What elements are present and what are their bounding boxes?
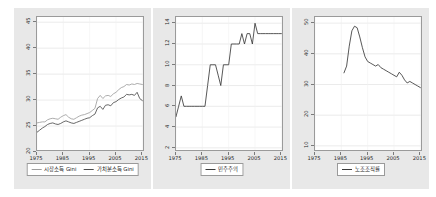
y-axis-tick-mark [172,22,175,23]
x-axis-tick-label: 1995 [82,155,95,161]
legend-label: 민주주의 [218,166,238,173]
y-axis-tick-label: 20 [302,110,310,118]
y-axis-tick-mark [33,73,36,74]
x-axis-tick-label: 1995 [221,155,234,161]
y-axis-tick-label: 40 [302,49,310,57]
series-line-0 [344,26,420,87]
y-axis-tick-mark [33,21,36,22]
legend-item[interactable]: 노조조직률 [342,166,380,173]
y-axis-tick: 10 [292,141,312,149]
y-axis-tick-mark [172,43,175,44]
plot-svg-0 [37,17,144,151]
y-axis-tick-label: 14 [163,18,171,26]
y-axis-tick-label: 8 [163,81,171,89]
y-axis-tick-mark [172,105,175,106]
y-axis-tick: 4 [153,122,173,130]
y-axis-tick-label: 6 [163,101,171,109]
chart-panel-union-density: 102030405019751985199520052015노조조직률 [292,8,429,189]
legend-0: 시장소득 Gini가처분소득 Gini [26,163,139,176]
y-axis-tick-label: 2 [163,143,171,151]
y-axis-tick-mark [311,22,314,23]
legend-item[interactable]: 가처분소득 Gini [84,166,134,173]
x-axis-tick-label: 1985 [334,155,347,161]
x-axis-tick-label: 1995 [360,155,373,161]
y-axis-tick: 12 [153,39,173,47]
figure-canvas: 20253035404519751985199520052015시장소득 Gin… [0,0,436,197]
y-axis-tick-mark [33,125,36,126]
legend-2: 노조조직률 [337,163,385,176]
y-axis-tick-label: 20 [24,147,32,155]
y-axis-tick-label: 35 [24,69,32,77]
legend-1: 민주주의 [200,163,243,176]
legend-line-icon [84,169,94,170]
y-axis-tick-mark [33,47,36,48]
x-axis-tick-label: 1985 [195,155,208,161]
y-axis-tick-mark [311,84,314,85]
y-axis-tick-label: 4 [163,122,171,130]
plot-svg-2 [315,17,422,151]
x-axis-tick-label: 1985 [56,155,69,161]
y-axis-tick-mark [172,147,175,148]
plot-wrap-2: 102030405019751985199520052015 [314,16,422,151]
x-axis-tick-label: 2005 [247,155,260,161]
y-axis-tick-mark [311,145,314,146]
y-axis-tick: 40 [292,49,312,57]
y-axis-tick: 10 [153,60,173,68]
plot-wrap-0: 20253035404519751985199520052015 [36,16,144,151]
y-axis-tick: 30 [292,80,312,88]
x-axis-tick-label: 2005 [108,155,121,161]
y-axis-tick: 25 [14,121,34,129]
legend-item[interactable]: 시장소득 Gini [31,166,76,173]
y-axis-tick: 8 [153,81,173,89]
x-axis-tick-label: 2015 [135,155,148,161]
y-axis-tick: 20 [292,110,312,118]
x-axis-tick-label: 1975 [307,155,320,161]
y-axis-tick-mark [172,85,175,86]
plot-area-1 [175,16,283,151]
y-axis-tick-mark [172,64,175,65]
y-axis-tick-label: 12 [163,39,171,47]
x-axis-tick-label: 2005 [386,155,399,161]
y-axis-tick-label: 10 [163,60,171,68]
x-axis-tick-label: 2015 [274,155,287,161]
y-axis-tick-label: 30 [24,95,32,103]
y-axis-tick-mark [311,114,314,115]
x-axis-tick-label: 1975 [29,155,42,161]
legend-label: 시장소득 Gini [44,166,76,173]
plot-area-0 [36,16,144,151]
legend-line-icon [342,169,352,170]
plot-wrap-1: 246810121419751985199520052015 [175,16,283,151]
y-axis-tick-label: 45 [24,17,32,25]
y-axis-tick-mark [311,53,314,54]
legend-line-icon [205,169,215,170]
y-axis-tick: 45 [14,17,34,25]
y-axis-tick: 2 [153,143,173,151]
y-axis-tick-mark [33,99,36,100]
plot-svg-1 [176,17,283,151]
y-axis-tick-mark [172,126,175,127]
legend-label: 노조조직률 [355,166,380,173]
y-axis-tick: 40 [14,43,34,51]
y-axis-tick: 6 [153,101,173,109]
legend-line-icon [31,169,41,170]
chart-panel-democracy: 246810121419751985199520052015민주주의 [153,8,290,189]
y-axis-tick: 20 [14,147,34,155]
y-axis-tick: 30 [14,95,34,103]
chart-panel-gini: 20253035404519751985199520052015시장소득 Gin… [14,8,151,189]
y-axis-tick-label: 40 [24,43,32,51]
y-axis-tick: 35 [14,69,34,77]
y-axis-tick-label: 10 [302,141,310,149]
plot-area-2 [314,16,422,151]
y-axis-tick-label: 25 [24,121,32,129]
legend-label: 가처분소득 Gini [97,166,134,173]
y-axis-tick-label: 50 [302,18,310,26]
y-axis-tick: 14 [153,18,173,26]
y-axis-tick-label: 30 [302,80,310,88]
y-axis-tick: 50 [292,18,312,26]
x-axis-tick-label: 2015 [413,155,426,161]
legend-item[interactable]: 민주주의 [205,166,238,173]
x-axis-tick-label: 1975 [168,155,181,161]
